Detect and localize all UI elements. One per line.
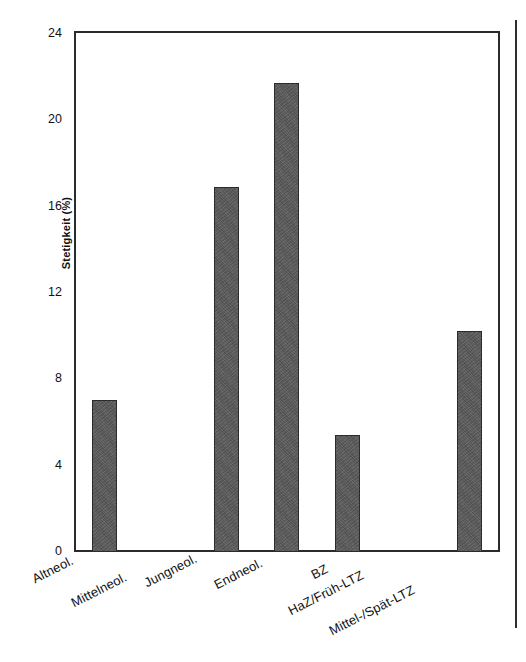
page-margin-rule [515, 20, 517, 628]
x-label-mittelneol: Mittelneol. [69, 569, 130, 610]
y-tick-label-24: 24 [48, 27, 62, 39]
y-tick-label-8: 8 [55, 372, 62, 384]
x-label-endneol: Endneol. [212, 555, 265, 592]
bar-jungneol [214, 187, 239, 552]
bar-mittel-spaet-ltz [457, 331, 482, 552]
y-tick-label-16: 16 [48, 200, 62, 212]
y-tick-label-20: 20 [48, 113, 62, 125]
bars-layer [74, 31, 500, 552]
x-label-bz: BZ [309, 561, 331, 582]
bar-endneol [274, 83, 299, 552]
x-label-altneol: Altneol. [30, 553, 76, 586]
bar-bz [335, 435, 360, 552]
bar-altneol [92, 400, 117, 552]
y-tick-label-12: 12 [48, 286, 62, 298]
x-axis-labels: Altneol. Mittelneol. Jungneol. Endneol. … [0, 552, 526, 662]
x-label-jungneol: Jungneol. [142, 551, 200, 590]
y-tick-label-4: 4 [55, 459, 62, 471]
bar-chart-figure: Stetigkeit (%) 0 4 8 12 16 20 24 Altneol… [0, 0, 526, 662]
